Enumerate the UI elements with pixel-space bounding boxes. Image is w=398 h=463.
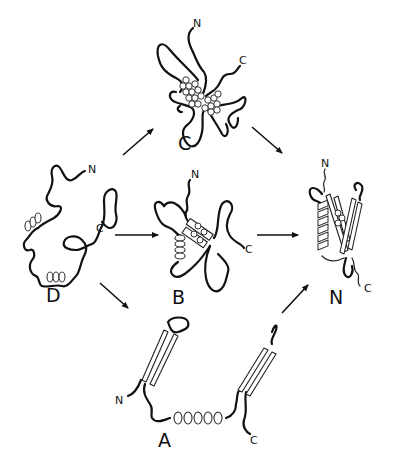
helix-d-2: [47, 272, 65, 282]
state-d-c-terminus: C: [96, 222, 104, 235]
state-d-structure: N C: [24, 163, 117, 287]
arrow-a-to-n: [282, 285, 308, 313]
state-d-n-terminus: N: [88, 163, 96, 176]
helix-a: [174, 412, 222, 424]
state-c-label: C: [178, 132, 191, 154]
arrow-d-to-c: [123, 129, 153, 155]
state-b-n-terminus: N: [191, 168, 199, 181]
state-a-structure: N C: [115, 318, 277, 448]
state-a-n-terminus: N: [115, 394, 123, 407]
helix-n: [318, 200, 328, 250]
helix-b: [175, 235, 185, 259]
hairpin-a-1: [142, 330, 178, 386]
state-a-label: A: [158, 429, 171, 451]
state-n-c-terminus: C: [364, 282, 372, 295]
state-c-n-terminus: N: [193, 17, 201, 30]
arrow-d-to-a: [100, 283, 128, 308]
arrow-c-to-n: [252, 127, 282, 153]
hydrophobic-cluster-c: [180, 77, 221, 115]
state-b-c-terminus: C: [245, 243, 253, 256]
state-n-n-terminus: N: [321, 157, 329, 170]
state-c-structure: N C: [158, 17, 247, 146]
state-n-label: N: [329, 286, 343, 308]
hairpin-a-2: [238, 348, 276, 396]
state-b-label: B: [172, 286, 185, 308]
state-n-structure: N C: [310, 157, 372, 295]
protein-folding-diagram: N C C N C D: [0, 0, 398, 463]
state-a-c-terminus: C: [250, 434, 258, 447]
state-c-c-terminus: C: [239, 54, 247, 67]
beta-sheet-n: [326, 194, 362, 254]
state-b-structure: N C: [155, 168, 253, 291]
state-d-label: D: [46, 284, 61, 306]
